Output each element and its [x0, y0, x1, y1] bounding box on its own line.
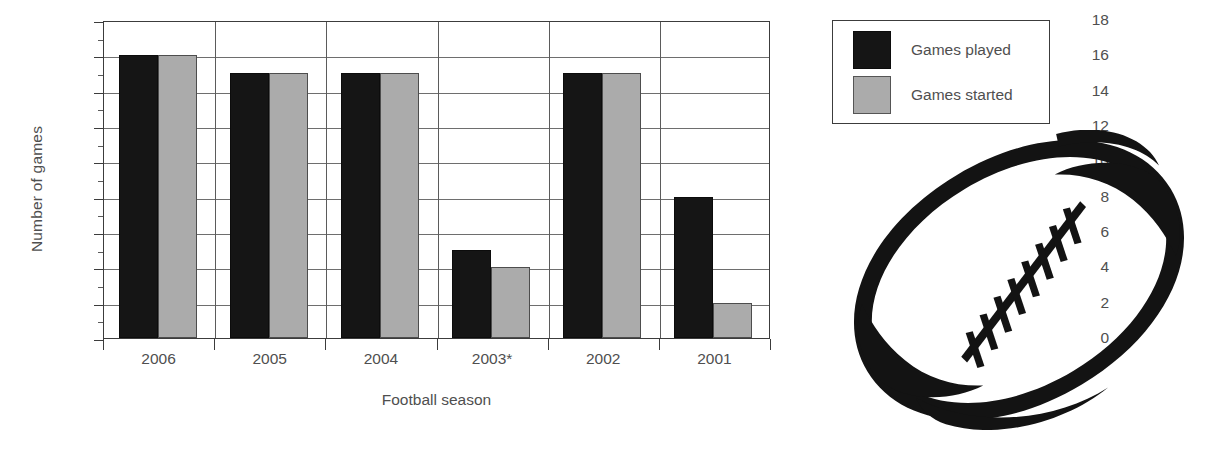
y-axis-tick-label: 14 — [1065, 82, 1109, 100]
y-axis-tick-minor — [98, 40, 103, 41]
x-axis-category-label: 2001 — [654, 350, 774, 368]
x-axis-tick — [548, 339, 549, 350]
x-axis-tick — [103, 339, 104, 350]
bar-chart-figure: Number of games 024681012141618 20062005… — [0, 0, 1212, 454]
x-axis-tick — [214, 339, 215, 350]
legend-label-games-started: Games started — [911, 86, 1013, 104]
bar-games-started — [713, 303, 752, 338]
legend-entry-games-played: Games played — [853, 31, 1011, 69]
y-axis-tick-major — [94, 128, 103, 129]
x-axis-tick — [770, 339, 771, 350]
x-axis-category-label: 2003* — [432, 350, 552, 368]
y-axis-tick-minor — [98, 146, 103, 147]
american-football-illustration-icon — [826, 130, 1212, 430]
y-axis-tick-minor — [98, 322, 103, 323]
bar-group — [104, 22, 769, 338]
x-axis-tick — [659, 339, 660, 350]
y-axis-tick-major — [94, 340, 103, 341]
y-axis-tick-major — [94, 22, 103, 23]
plot-area — [103, 21, 770, 339]
y-axis-tick-major — [94, 199, 103, 200]
y-axis-tick-minor — [98, 252, 103, 253]
x-axis-category-label: 2002 — [543, 350, 663, 368]
y-axis-tick-major — [94, 305, 103, 306]
y-axis-title: Number of games — [28, 89, 46, 289]
y-axis-tick-major — [94, 163, 103, 164]
legend-label-games-played: Games played — [911, 41, 1011, 59]
y-axis-tick-major — [94, 93, 103, 94]
legend-swatch-gray-square — [853, 76, 891, 114]
x-axis-category-label: 2005 — [210, 350, 330, 368]
x-axis-title: Football season — [103, 391, 770, 409]
y-axis-tick-label: 18 — [1065, 11, 1109, 29]
x-axis-tick — [325, 339, 326, 350]
legend-entry-games-started: Games started — [853, 76, 1013, 114]
y-axis-tick-major — [94, 234, 103, 235]
chart-legend: Games played Games started — [832, 20, 1050, 124]
y-axis-tick-minor — [98, 75, 103, 76]
x-axis-tick — [437, 339, 438, 350]
y-axis-tick-minor — [98, 181, 103, 182]
x-axis-category-label: 2006 — [99, 350, 219, 368]
y-axis-tick-major — [94, 269, 103, 270]
y-axis-tick-minor — [98, 110, 103, 111]
y-axis-tick-label: 16 — [1065, 46, 1109, 64]
y-axis-tick-minor — [98, 287, 103, 288]
y-axis-tick-minor — [98, 216, 103, 217]
x-axis-category-label: 2004 — [321, 350, 441, 368]
legend-swatch-black-square — [853, 31, 891, 69]
bar-games-played — [674, 197, 713, 338]
y-axis-tick-major — [94, 57, 103, 58]
